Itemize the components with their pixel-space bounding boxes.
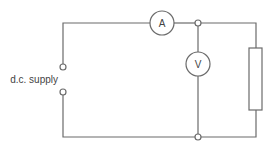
supply-wire-bottom	[63, 95, 195, 137]
resistor-icon	[249, 48, 262, 110]
junction-node-bottom	[195, 134, 201, 140]
circuit-svg: A V d.c. supply	[0, 0, 277, 149]
junction-node-top	[195, 20, 201, 26]
supply-terminal-positive	[60, 64, 66, 70]
supply-terminal-negative	[60, 89, 66, 95]
voltmeter-label: V	[195, 59, 202, 70]
supply-wire-top	[63, 23, 150, 64]
ammeter-label: A	[159, 18, 166, 29]
supply-label: d.c. supply	[10, 74, 58, 85]
circuit-diagram: A V d.c. supply	[0, 0, 277, 149]
wire-top-right	[201, 23, 256, 48]
wire-bottom-right	[201, 110, 256, 137]
